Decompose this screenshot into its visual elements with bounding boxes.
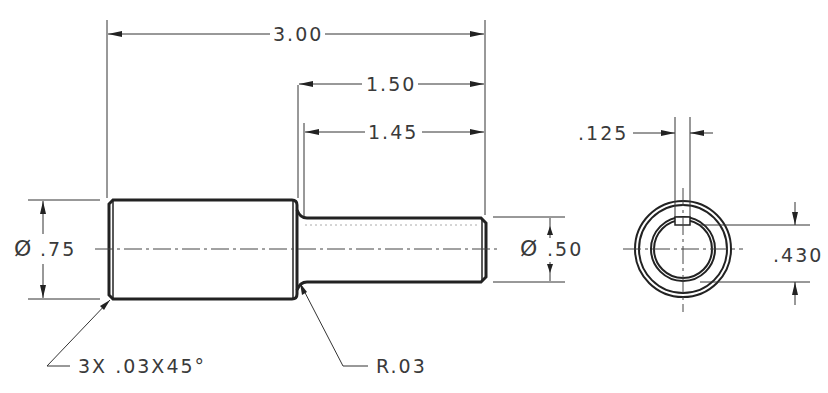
- dim-small-diameter: Ø .50: [520, 218, 583, 281]
- fillet-note-text: R.03: [376, 355, 427, 377]
- fillet-note: R.03: [300, 283, 427, 377]
- dim-text-overall: 3.00: [273, 23, 323, 45]
- technical-drawing: 3.00 1.50 1.45 Ø .75 Ø .50: [0, 0, 828, 393]
- dim-text-0-75: .75: [40, 238, 76, 260]
- dim-text-1-45: 1.45: [368, 121, 418, 143]
- dim-shoulder-to-end: 1.50: [299, 73, 484, 95]
- dim-text-0-125: .125: [578, 122, 628, 144]
- chamfer-note: 3X .03X45°: [47, 300, 206, 377]
- dim-small-length: 1.45: [305, 121, 484, 143]
- dim-text-0-430: .430: [773, 244, 823, 266]
- dim-text-1-50: 1.50: [366, 73, 416, 95]
- diameter-symbol-small: Ø: [520, 236, 539, 261]
- dim-text-0-50: .50: [547, 238, 583, 260]
- dim-large-diameter: Ø .75: [14, 201, 76, 298]
- end-view: [623, 188, 743, 312]
- front-view: [95, 200, 500, 299]
- diameter-symbol-large: Ø: [14, 236, 33, 261]
- dim-overall-length: 3.00: [108, 23, 484, 45]
- chamfer-note-text: 3X .03X45°: [78, 355, 206, 377]
- small-cylinder-outline: [297, 210, 486, 290]
